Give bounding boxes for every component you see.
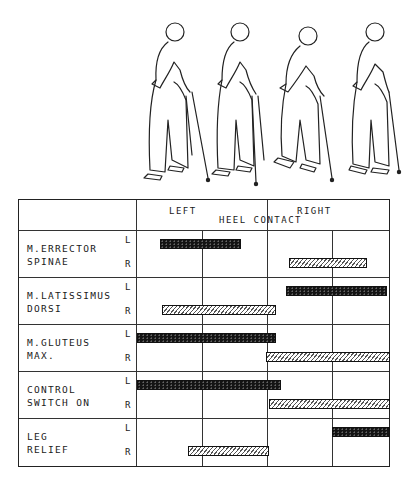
left-activity-bar — [286, 286, 387, 296]
right-activity-bar — [266, 352, 390, 362]
heel-contact-label: HEEL CONTACT — [219, 215, 302, 225]
left-activity-bar — [137, 333, 276, 343]
right-activity-bar — [162, 305, 276, 315]
right-activity-bar — [188, 446, 269, 456]
figure-3 — [274, 27, 334, 182]
left-heel-label: LEFT — [169, 206, 197, 216]
row-label: CONTROL SWITCH ON — [27, 383, 90, 409]
left-activity-bar — [137, 380, 281, 390]
left-side-marker: L — [125, 376, 130, 386]
right-side-marker: R — [125, 400, 130, 410]
right-activity-bar — [289, 258, 367, 268]
left-activity-bar — [160, 239, 241, 249]
left-activity-bar — [332, 427, 390, 437]
crutch-gait-illustration — [120, 0, 409, 190]
row-divider — [19, 324, 389, 325]
figure-1 — [144, 23, 210, 182]
left-side-marker: L — [125, 282, 130, 292]
gait-activity-table: LEFT RIGHT HEEL CONTACT M.ERRECTOR SPINA… — [18, 199, 390, 467]
gridline-25 — [202, 230, 203, 466]
row-label: M.ERRECTOR SPINAE — [27, 242, 97, 268]
figure-4 — [349, 23, 401, 174]
row-label: M.GLUTEUS MAX. — [27, 336, 90, 362]
right-heel-label: RIGHT — [297, 206, 332, 216]
left-side-marker: L — [125, 235, 130, 245]
row-divider — [19, 371, 389, 372]
row-divider — [19, 277, 389, 278]
right-side-marker: R — [125, 306, 130, 316]
right-side-marker: R — [125, 353, 130, 363]
row-divider — [19, 418, 389, 419]
figure-2 — [212, 23, 264, 186]
header-divider — [19, 230, 389, 231]
right-side-marker: R — [125, 447, 130, 457]
right-side-marker: R — [125, 259, 130, 269]
left-side-marker: L — [125, 329, 130, 339]
row-label: M.LATISSIMUS DORSI — [27, 289, 111, 315]
row-label: LEG RELIEF — [27, 430, 69, 456]
left-side-marker: L — [125, 423, 130, 433]
right-activity-bar — [269, 399, 390, 409]
